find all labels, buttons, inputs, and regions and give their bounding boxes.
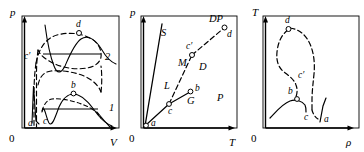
- panel-pv-label-a: a: [28, 118, 33, 128]
- panel-pt-region-S: S: [161, 27, 167, 38]
- pv-dashed-cprime-branch2: [37, 50, 39, 127]
- panel-trho-label-cprime: c′: [298, 70, 305, 80]
- pt-segment-cprime-to-d: [192, 28, 224, 55]
- trho-dome-left-branch: [277, 30, 297, 99]
- panel-pv-label-d: d: [76, 19, 81, 29]
- panel-pt-label-d: d: [227, 29, 232, 39]
- panel-pt-label-b: b: [195, 83, 200, 93]
- panel-pt-label-a: a: [151, 118, 156, 128]
- panel-trho-origin: 0: [251, 132, 257, 144]
- panel-pt-xaxis-arrowhead: [229, 126, 236, 131]
- panel-pv-origin: 0: [9, 132, 15, 144]
- panel-pv-label-2: 2: [105, 51, 111, 62]
- panel-pressure-temperature: p T 0 S L G M D P DP a c b c′ d: [124, 0, 244, 152]
- pv-marker-b: [71, 91, 76, 96]
- panel-pv-xlabel: V: [110, 136, 118, 148]
- panel-pt-origin: 0: [129, 132, 135, 144]
- panel-trho-label-b: b: [288, 86, 293, 96]
- pv-isotherm-1-tail: [97, 112, 110, 127]
- panel-trho-xlabel: ρ: [345, 136, 351, 148]
- panel-pressure-volume: p V 0 a c b 1 c′ d 2: [0, 0, 124, 152]
- pt-marker-b: [188, 89, 193, 94]
- pt-marker-a: [144, 123, 149, 128]
- panel-trho-label-d: d: [285, 15, 290, 25]
- panel-pv-label-1: 1: [109, 102, 114, 113]
- pv-binodal-lower-sweep: [38, 71, 101, 92]
- pt-melting-curve-S: [145, 24, 162, 126]
- panel-pv-canvas: p V 0 a c b 1 c′ d 2: [0, 0, 124, 152]
- panel-trho-xaxis-arrowhead: [348, 126, 355, 131]
- panel-pt-region-L: L: [163, 80, 170, 91]
- panel-pt-region-DP: DP: [208, 13, 224, 24]
- pv-marker-d: [77, 31, 82, 36]
- trho-dome-right-branch: [290, 28, 314, 110]
- pv-branch-a-spike: [32, 86, 39, 124]
- panel-pt-label-c: c: [168, 106, 173, 116]
- panel-trho-frame: [263, 16, 359, 128]
- trho-marker-d: [286, 27, 291, 32]
- trho-dashed-to-a: [312, 110, 318, 119]
- panel-pv-label-b: b: [71, 80, 76, 90]
- panel-pt-yaxis-arrowhead: [141, 16, 146, 23]
- panel-trho-label-a: a: [324, 114, 329, 124]
- panel-pv-label-cprime: c′: [24, 51, 31, 61]
- pv-binodal-lower-right-riser: [101, 66, 102, 92]
- panel-pt-ylabel: p: [129, 6, 136, 18]
- panel-pt-region-D: D: [198, 61, 207, 72]
- panel-pt-region-M: M: [177, 57, 188, 68]
- panel-trho-canvas: T ρ 0 d c′ b c a: [244, 0, 364, 152]
- pv-lower-dashed-tail: [42, 99, 101, 118]
- panel-pt-frame: [141, 16, 237, 128]
- panel-temperature-density: T ρ 0 d c′ b c a: [244, 0, 364, 152]
- panel-trho-label-c: c: [304, 112, 309, 122]
- panel-pt-canvas: p T 0 S L G M D P DP a c b c′ d: [124, 0, 244, 152]
- panel-pt-label-cprime: c′: [186, 41, 193, 51]
- panel-pv-ylabel: p: [9, 6, 16, 18]
- figure-three-phase-diagrams: p V 0 a c b 1 c′ d 2: [0, 0, 364, 152]
- trho-marker-b: [295, 97, 300, 102]
- panel-trho-yaxis-arrowhead: [263, 16, 268, 23]
- panel-pt-region-P: P: [216, 92, 224, 103]
- panel-trho-ylabel: T: [252, 6, 259, 18]
- pt-marker-cprime: [190, 53, 195, 58]
- panel-pt-xlabel: T: [229, 136, 236, 148]
- trho-lower-branch-bc: [270, 100, 306, 118]
- panel-pt-region-G: G: [187, 95, 195, 106]
- pt-segment-a-to-c: [146, 104, 169, 125]
- panel-pv-yaxis-arrowhead: [22, 16, 27, 23]
